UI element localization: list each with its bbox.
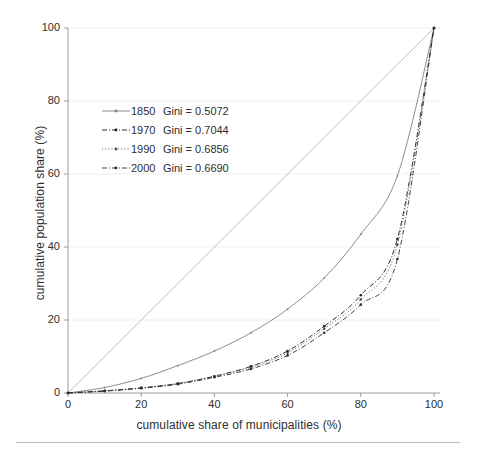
chart-plot-svg	[0, 0, 478, 456]
data-point-2000-100	[433, 27, 436, 30]
legend-line-swatch-1850	[101, 105, 131, 117]
data-series-group	[68, 28, 434, 393]
legend-gini-label: Gini = 0.5072	[163, 105, 229, 117]
data-point-1850-10	[104, 387, 106, 389]
data-point-1990-60	[286, 352, 289, 355]
data-point-2000-20	[140, 387, 143, 390]
data-point-1850-20	[140, 378, 142, 380]
data-point-1970-70	[323, 325, 326, 328]
legend-year-label: 1970	[131, 124, 163, 136]
data-point-2000-0	[67, 392, 70, 395]
legend-marker	[115, 147, 118, 150]
data-point-2000-80	[360, 303, 363, 306]
data-point-1850-90	[397, 175, 399, 177]
data-point-1970-90	[396, 238, 399, 241]
legend-marker	[115, 166, 118, 169]
data-point-1850-80	[360, 233, 362, 235]
data-point-2000-50	[250, 368, 253, 371]
y-tick-label-100: 100	[20, 21, 60, 33]
series-line-equality-line	[68, 28, 434, 393]
data-point-1850-70	[323, 277, 325, 279]
data-point-1990-80	[360, 298, 363, 301]
legend-year-label: 2000	[131, 162, 163, 174]
chart-legend: 1850Gini = 0.50721970Gini = 0.70441990Gi…	[101, 101, 261, 177]
legend-gini-label: Gini = 0.6690	[163, 162, 229, 174]
legend-row-2000: 2000Gini = 0.6690	[101, 158, 261, 177]
axes-lines-group	[68, 28, 440, 393]
data-point-2000-60	[286, 354, 289, 357]
legend-gini-label: Gini = 0.7044	[163, 124, 229, 136]
data-point-1850-40	[214, 350, 216, 352]
legend-row-1970: 1970Gini = 0.7044	[101, 120, 261, 139]
legend-row-1850: 1850Gini = 0.5072	[101, 101, 261, 120]
data-point-2000-40	[213, 376, 216, 379]
legend-line-swatch-1990	[101, 143, 131, 155]
data-point-1970-80	[360, 294, 363, 297]
data-point-1990-90	[396, 244, 399, 247]
x-tick-label-20: 20	[121, 398, 161, 410]
x-axis-title: cumulative share of municipalities (%)	[0, 418, 478, 432]
x-tick-label-0: 0	[48, 398, 88, 410]
data-point-1850-30	[177, 365, 179, 367]
legend-year-label: 1850	[131, 105, 163, 117]
data-point-1850-60	[287, 308, 289, 310]
x-tick-label-40: 40	[194, 398, 234, 410]
legend-line-swatch-2000	[101, 162, 131, 174]
legend-marker	[115, 128, 118, 131]
legend-marker	[115, 109, 118, 112]
footer-divider-rule	[16, 442, 460, 443]
data-point-1850-50	[250, 332, 252, 334]
x-tick-label-80: 80	[341, 398, 381, 410]
legend-line-swatch-1970	[101, 124, 131, 136]
legend-gini-label: Gini = 0.6856	[163, 143, 229, 155]
y-axis-title: cumulative population share (%)	[33, 33, 47, 393]
data-point-2000-70	[323, 331, 326, 334]
x-tick-label-60: 60	[268, 398, 308, 410]
legend-year-label: 1990	[131, 143, 163, 155]
legend-row-1990: 1990Gini = 0.6856	[101, 139, 261, 158]
data-point-2000-30	[177, 383, 180, 386]
data-point-2000-10	[103, 390, 106, 393]
data-point-1990-70	[323, 327, 326, 330]
x-tick-label-100: 100	[414, 398, 454, 410]
lorenz-curve-figure: 020406080100020406080100 cumulative shar…	[0, 0, 478, 456]
data-point-2000-90	[396, 258, 399, 261]
